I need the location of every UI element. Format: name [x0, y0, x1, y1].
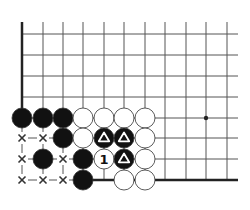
white-stone [135, 149, 155, 169]
black-stone [94, 128, 114, 148]
stone-body [94, 108, 114, 128]
star-point [204, 116, 208, 120]
stone-body [53, 108, 73, 128]
x-mark-icon [57, 174, 69, 186]
x-mark-icon [37, 174, 49, 186]
black-stone [73, 149, 93, 169]
stone-body [114, 108, 134, 128]
stone-body [135, 149, 155, 169]
white-stone [114, 170, 134, 190]
go-diagram: 1 [0, 0, 250, 210]
stone-body [33, 108, 53, 128]
stone-body [73, 149, 93, 169]
x-mark-icon [16, 153, 28, 165]
stone-body [114, 128, 134, 148]
white-stone [94, 108, 114, 128]
white-stone [135, 128, 155, 148]
star-points [204, 116, 208, 120]
stone-body [135, 170, 155, 190]
black-stone [53, 108, 73, 128]
white-stone [135, 170, 155, 190]
move-number-label: 1 [99, 152, 108, 167]
white-stone [135, 108, 155, 128]
stone-body [73, 108, 93, 128]
black-stone [73, 170, 93, 190]
stone-body [135, 128, 155, 148]
x-mark-icon [57, 153, 69, 165]
go-board-svg: 1 [0, 0, 250, 210]
black-stone [12, 108, 32, 128]
white-stone [73, 108, 93, 128]
x-mark-icon [16, 132, 28, 144]
x-mark-icon [16, 174, 28, 186]
stone-body [73, 170, 93, 190]
stone-body [114, 149, 134, 169]
black-stone [33, 149, 53, 169]
stone-body [53, 128, 73, 148]
black-stone [53, 128, 73, 148]
white-stone: 1 [94, 149, 114, 169]
white-stone [73, 128, 93, 148]
stone-body [94, 128, 114, 148]
stone-body [135, 108, 155, 128]
x-mark-icon [37, 132, 49, 144]
black-stone [114, 128, 134, 148]
black-stone [114, 149, 134, 169]
white-stone [114, 108, 134, 128]
stone-body [73, 128, 93, 148]
stones: 1 [12, 108, 155, 190]
stone-body [114, 170, 134, 190]
stone-body [12, 108, 32, 128]
black-stone [33, 108, 53, 128]
stone-body [33, 149, 53, 169]
